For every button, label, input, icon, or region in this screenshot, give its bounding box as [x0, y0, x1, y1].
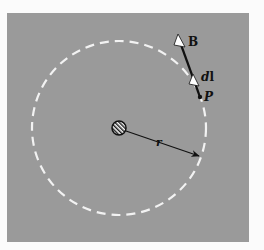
- length-element-l: l: [209, 70, 214, 84]
- ampere-law-diagram: r B dl P: [0, 0, 264, 250]
- wire-icon: [112, 121, 126, 135]
- diagram-panel: [7, 13, 249, 242]
- length-element-label: dl: [201, 70, 214, 84]
- point-label: P: [203, 90, 214, 104]
- point-p-dot: [198, 95, 202, 99]
- field-label: B: [188, 35, 198, 49]
